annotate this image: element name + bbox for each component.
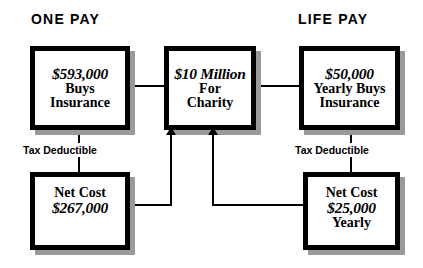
charity-amount: $10 Million xyxy=(174,66,245,82)
box-life-pay-premium: $50,000 Yearly Buys Insurance xyxy=(299,46,400,130)
life-pay-net-cost-label: Net Cost xyxy=(326,186,378,200)
life-pay-premium-amount: $50,000 xyxy=(325,66,373,82)
charity-line3: Charity xyxy=(187,96,234,110)
insurance-comparison-diagram: ONE PAY LIFE PAY $593,000 Buys Insurance… xyxy=(0,0,423,268)
label-tax-deductible-left: Tax Deductible xyxy=(20,143,100,157)
connector-right-net-cost-vertical xyxy=(212,134,214,206)
section-header-life-pay: LIFE PAY xyxy=(298,11,368,27)
one-pay-premium-line2: Buys xyxy=(65,82,95,96)
box-charity: $10 Million For Charity xyxy=(164,46,256,130)
charity-line2: For xyxy=(199,82,221,96)
connector-left-net-cost-horizontal xyxy=(130,204,172,206)
section-header-one-pay: ONE PAY xyxy=(31,11,100,27)
one-pay-premium-amount: $593,000 xyxy=(52,66,108,82)
one-pay-net-cost-amount: $267,000 xyxy=(52,200,108,216)
arrow-head-left-to-charity xyxy=(166,127,176,135)
connector-right-net-cost-horizontal xyxy=(212,204,304,206)
box-one-pay-premium: $593,000 Buys Insurance xyxy=(30,46,130,130)
connector-charity-to-life-pay xyxy=(255,85,301,87)
life-pay-premium-line2: Yearly Buys xyxy=(314,82,386,96)
life-pay-net-cost-amount: $25,000 xyxy=(327,200,375,216)
one-pay-premium-line3: Insurance xyxy=(50,96,110,110)
label-tax-deductible-right: Tax Deductible xyxy=(292,143,372,157)
connector-one-pay-to-charity xyxy=(130,85,166,87)
life-pay-premium-line3: Insurance xyxy=(320,96,380,110)
one-pay-net-cost-label: Net Cost xyxy=(54,186,106,200)
arrow-head-right-to-charity xyxy=(208,127,218,135)
connector-left-net-cost-vertical xyxy=(170,134,172,206)
life-pay-net-cost-period: Yearly xyxy=(332,216,371,230)
box-one-pay-net-cost: Net Cost $267,000 xyxy=(30,172,130,250)
box-life-pay-net-cost: Net Cost $25,000 Yearly xyxy=(303,172,400,250)
